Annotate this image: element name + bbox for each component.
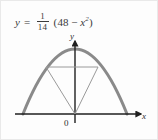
origin-label: 0: [64, 118, 69, 128]
math-figure-parabola-triangle: y = 1 14 (48−x2) y x 0: [0, 0, 158, 140]
inscribed-triangle: [46, 67, 98, 114]
x-axis-label: x: [142, 111, 146, 121]
plot-area: [1, 1, 158, 140]
y-axis-label: y: [70, 31, 74, 41]
